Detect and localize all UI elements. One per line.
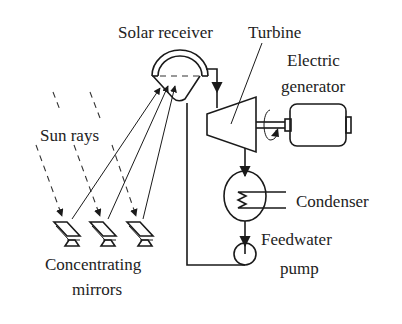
concentrating-mirrors-label-2: mirrors — [72, 280, 122, 299]
feedwater-pump-label-2: pump — [280, 259, 319, 278]
solar-receiver-icon — [152, 50, 208, 101]
condenser-icon — [224, 171, 286, 221]
reflected-rays-icon — [72, 86, 175, 219]
concentrating-mirrors-label-1: Concentrating — [45, 255, 142, 274]
solar-power-plant-diagram: Solar receiver Turbine Electric generato… — [0, 0, 402, 324]
sun-rays-label: Sun rays — [40, 126, 99, 145]
turbine-icon — [207, 43, 262, 152]
concentrating-mirror-3-icon — [127, 222, 153, 246]
shaft-icon — [256, 110, 285, 140]
electric-generator-label-1: Electric — [287, 51, 340, 70]
concentrating-mirror-2-icon — [90, 222, 116, 246]
feedwater-pump-label-1: Feedwater — [261, 230, 332, 249]
turbine-label: Turbine — [248, 23, 301, 42]
concentrating-mirror-1-icon — [54, 222, 80, 246]
solar-receiver-label: Solar receiver — [118, 23, 213, 42]
feedwater-pump-icon — [234, 243, 256, 265]
electric-generator-label-2: generator — [281, 77, 346, 96]
condenser-label: Condenser — [296, 192, 369, 211]
electric-generator-icon — [285, 104, 351, 146]
feedwater-return-line — [187, 103, 245, 265]
